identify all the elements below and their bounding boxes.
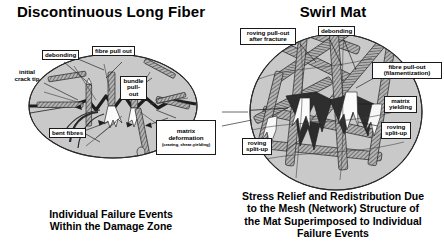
caption-right: Stress Relief and Redistribution Due to …: [222, 190, 444, 239]
label-roving-pull-out-after-fracture: roving pull-out after fracture: [240, 28, 296, 45]
label-matrix-deformation-main: matrix deformation: [168, 127, 203, 141]
label-initial-crack-tip: initial crack tip: [8, 69, 46, 83]
label-bundle-pull-out: bundle pull-out: [120, 76, 147, 100]
label-debonding-right: debonding: [318, 26, 355, 36]
panel-discontinuous-long-fiber: Discontinuous Long Fiber debonding fibre…: [0, 0, 222, 249]
label-fibre-pull-out-left: fibre pull out: [92, 46, 135, 56]
composite-failure-figure: Discontinuous Long Fiber debonding fibre…: [0, 0, 444, 249]
caption-left: Individual Failure Events Within the Dam…: [0, 208, 222, 232]
label-roving-split-up-right: roving split-up: [381, 122, 411, 139]
panel-swirl-mat: Swirl Mat roving pull-out after fracture…: [222, 0, 444, 249]
label-debonding-left: debonding: [42, 50, 79, 60]
panel-title-right: Swirl Mat: [222, 3, 444, 20]
label-bent-fibres: bent fibres: [49, 128, 86, 138]
label-matrix-deformation-sub: (crazing, shear-yielding): [159, 142, 213, 147]
label-roving-split-up-left: roving split-up: [242, 138, 272, 155]
label-matrix-yielding: matrix yielding: [384, 96, 417, 113]
panel-title-left: Discontinuous Long Fiber: [0, 3, 222, 20]
label-fibre-pull-out-filamentization: fibre pull-out (filamentization): [372, 62, 442, 79]
label-matrix-deformation: matrix deformation (crazing, shear-yield…: [156, 120, 216, 155]
